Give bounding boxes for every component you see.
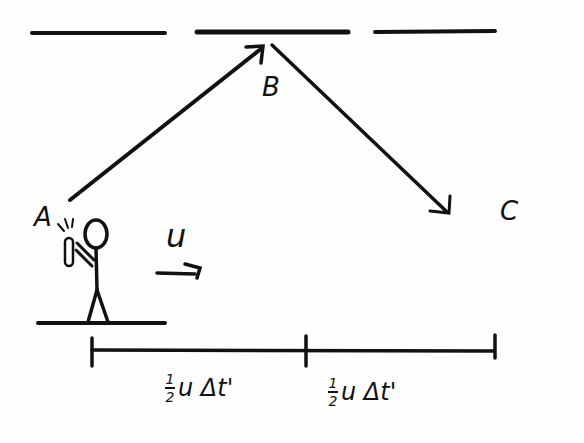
velocity-label: u [166,220,186,252]
mirror [32,31,495,33]
ray-a-to-b [70,46,263,200]
diagram-drawing [0,0,584,443]
ray-b-to-c [272,45,450,213]
light-clock-diagram: A B C u 1 2 u Δt' 1 2 u Δt' [0,0,584,443]
point-b-label: B [262,74,280,100]
velocity-arrow-icon [157,264,200,278]
segment-expression: u Δt' [178,376,233,400]
fraction-half: 1 2 [165,372,175,404]
distance-bar [92,335,495,366]
segment-label-right: 1 2 u Δt' [328,376,396,408]
observer-figure [76,220,108,322]
light-source-icon [58,219,73,266]
point-c-label: C [500,198,518,224]
fraction-half: 1 2 [328,376,338,408]
point-a-label: A [34,204,52,230]
segment-label-left: 1 2 u Δt' [165,372,233,404]
segment-expression: u Δt' [341,380,396,404]
